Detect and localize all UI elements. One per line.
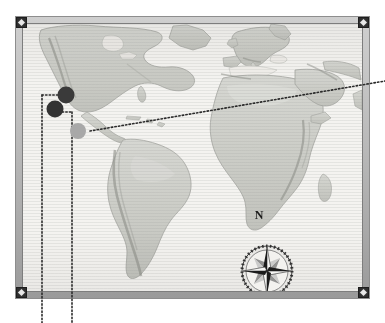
- compass-rose: [239, 243, 295, 291]
- landmass-illustration: [23, 24, 362, 291]
- diamond-icon: [18, 19, 25, 26]
- frame-corner-mount-bottom-right: [358, 287, 369, 298]
- diamond-icon: [360, 19, 367, 26]
- diamond-icon: [18, 289, 25, 296]
- world-relief-map: [23, 24, 362, 291]
- frame-corner-mount-top-right: [358, 17, 369, 28]
- map-frame: [15, 16, 370, 299]
- compass-north-label: N: [249, 209, 269, 221]
- diamond-icon: [360, 289, 367, 296]
- frame-corner-mount-top-left: [16, 17, 27, 28]
- screenshot-stage: N: [0, 0, 385, 323]
- frame-corner-mount-bottom-left: [16, 287, 27, 298]
